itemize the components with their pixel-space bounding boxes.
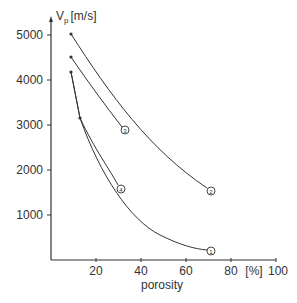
point-marker <box>69 70 72 73</box>
x-axis-label: porosity <box>141 278 183 292</box>
curve-3 <box>71 57 122 127</box>
ytick-3000: 3000 <box>16 118 43 132</box>
xtick-20: 20 <box>89 264 103 278</box>
point-marker <box>78 116 81 119</box>
marker-4: 4 <box>117 185 125 193</box>
xtick-40: 40 <box>134 264 148 278</box>
porosity-velocity-chart: 1000 2000 3000 4000 5000 20 40 60 80 [%]… <box>0 0 297 303</box>
marker-3: 3 <box>121 126 129 134</box>
point-marker <box>69 32 72 35</box>
curve-4 <box>71 72 118 185</box>
ytick-2000: 2000 <box>16 163 43 177</box>
xtick-80: 80 <box>224 264 238 278</box>
x-ticks: 20 40 60 80 [%] 100 <box>89 258 288 278</box>
y-axis-label: Vp[m/s] <box>56 9 96 25</box>
x-unit: [%] <box>245 264 262 278</box>
y-axis-arrow-icon <box>49 16 53 22</box>
y-ticks: 1000 2000 3000 4000 5000 <box>16 28 51 222</box>
marker-2: 2 <box>207 187 215 195</box>
xtick-100: 100 <box>268 264 288 278</box>
ytick-4000: 4000 <box>16 73 43 87</box>
curve-1 <box>71 72 207 250</box>
xtick-60: 60 <box>179 264 193 278</box>
ytick-1000: 1000 <box>16 208 43 222</box>
ytick-5000: 5000 <box>16 28 43 42</box>
curve-2 <box>71 34 207 188</box>
point-marker <box>69 55 72 58</box>
marker-1: 1 <box>207 247 215 255</box>
